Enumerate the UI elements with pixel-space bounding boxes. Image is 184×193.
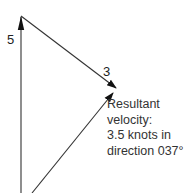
north-magnitude-label: 5 bbox=[7, 33, 14, 46]
east-vector-line bbox=[21, 16, 116, 88]
caption-line-2: velocity: bbox=[107, 113, 184, 129]
caption-line-1: Resultant bbox=[107, 97, 184, 113]
caption-line-3: 3.5 knots in bbox=[107, 128, 184, 144]
east-magnitude-label: 3 bbox=[103, 65, 110, 78]
resultant-caption: Resultant velocity: 3.5 knots in directi… bbox=[107, 97, 184, 159]
caption-line-4: direction 037° bbox=[107, 144, 184, 160]
resultant-vector-line bbox=[32, 93, 113, 193]
